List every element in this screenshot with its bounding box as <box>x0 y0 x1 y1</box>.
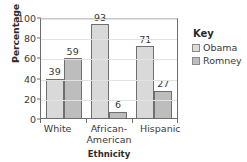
bar-value-label: 27 <box>157 79 169 89</box>
bar-romney-white[interactable] <box>64 58 82 118</box>
x-axis-category-label: Hispanic <box>136 124 184 145</box>
y-tick-label: 20 <box>14 93 36 104</box>
legend-items: ObamaRomney <box>192 42 247 66</box>
x-axis-labels: WhiteAfrican-AmericanHispanic <box>32 124 186 145</box>
bar-slot: 93 <box>91 19 109 118</box>
y-tick-label: 60 <box>14 53 36 64</box>
gridline <box>41 19 177 20</box>
bar-romney-african-american[interactable] <box>109 112 127 118</box>
bar-slot: 59 <box>64 19 82 118</box>
x-axis-category-line: African- <box>85 124 133 135</box>
bar-value-label: 6 <box>115 100 121 110</box>
bar-group: 936 <box>91 19 127 118</box>
gridline <box>41 39 177 40</box>
legend-item-romney[interactable]: Romney <box>192 55 247 66</box>
bar-groups: 39599367127 <box>41 19 177 118</box>
plot-area: 39599367127 <box>40 18 178 119</box>
bar-slot: 27 <box>154 19 172 118</box>
y-tick-label: 100 <box>14 13 36 24</box>
x-axis-category-label: African-American <box>85 124 133 145</box>
bar-obama-white[interactable] <box>46 79 64 118</box>
bar-group: 7127 <box>136 19 172 118</box>
bar-value-label: 93 <box>94 13 106 23</box>
x-tick-mark <box>132 119 133 123</box>
legend-item-obama[interactable]: Obama <box>192 42 247 53</box>
x-axis-title: Ethnicity <box>40 149 178 159</box>
x-tick-mark <box>40 119 41 123</box>
bar-slot: 39 <box>46 19 64 118</box>
x-tick-mark <box>86 119 87 123</box>
legend-item-label: Romney <box>203 55 242 66</box>
legend-item-label: Obama <box>203 42 237 53</box>
legend-swatch-icon <box>192 44 200 52</box>
gridline <box>41 59 177 60</box>
legend: Key ObamaRomney <box>192 28 247 66</box>
gridline <box>41 80 177 81</box>
bar-slot: 71 <box>136 19 154 118</box>
x-axis-category-line: White <box>34 124 82 135</box>
x-axis-category-label: White <box>34 124 82 145</box>
legend-swatch-icon <box>192 57 200 65</box>
bar-chart: Percentage 020406080100 39599367127 Whit… <box>0 0 247 162</box>
x-axis-category-line: American <box>85 135 133 146</box>
bar-group: 3959 <box>46 19 82 118</box>
bar-value-label: 39 <box>49 67 61 77</box>
bar-value-label: 59 <box>67 47 79 57</box>
x-axis-category-line: Hispanic <box>136 124 184 135</box>
bar-obama-hispanic[interactable] <box>136 46 154 118</box>
legend-title: Key <box>193 28 247 39</box>
y-tick-label: 80 <box>14 33 36 44</box>
bar-obama-african-american[interactable] <box>91 24 109 118</box>
bar-slot: 6 <box>109 19 127 118</box>
y-tick-label: 0 <box>14 114 36 125</box>
bar-romney-hispanic[interactable] <box>154 91 172 118</box>
y-axis-ticks: 020406080100 <box>14 18 36 119</box>
y-tick-label: 40 <box>14 73 36 84</box>
gridline <box>41 100 177 101</box>
